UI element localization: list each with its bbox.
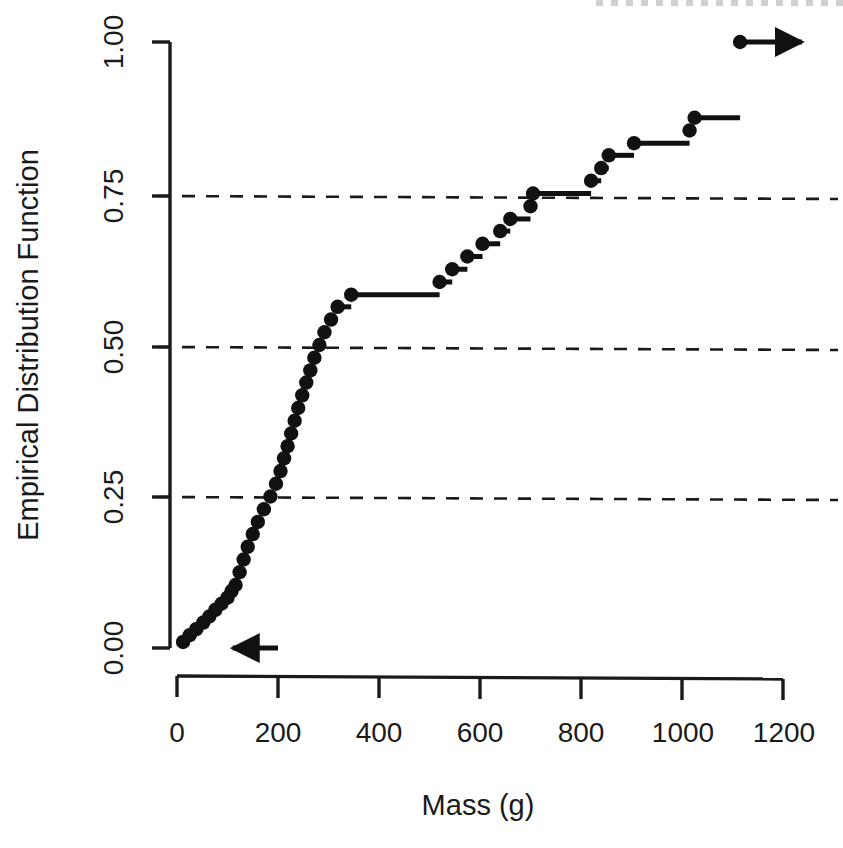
ecdf-data-point [594,161,608,175]
ecdf-data-point [317,325,331,339]
ecdf-data-point [236,552,250,566]
y-tick-label-025: 0.25 [98,470,129,525]
x-tick-label-200: 200 [255,717,302,748]
ecdf-data-point [330,300,344,314]
y-axis [152,42,170,648]
ecdf-data-point [241,540,255,554]
ecdf-data-point [251,515,265,529]
ecdf-data-point [277,451,291,465]
x-axis [177,676,783,700]
reference-line-075 [158,196,838,199]
ecdf-data-point [273,464,287,478]
y-tick-label-050: 0.50 [98,320,129,375]
ecdf-step-series [176,35,802,649]
x-axis-title: Mass (g) [422,789,535,821]
ecdf-data-point [257,502,271,516]
y-tick-label-000: 0.00 [98,621,129,676]
reference-line-025 [158,497,838,500]
reference-line-050 [158,347,838,350]
y-tick-labels: 1.00 0.75 0.50 0.25 0.00 [98,15,129,676]
ecdf-data-point [284,426,298,440]
ecdf-data-point [445,262,459,276]
ecdf-data-point [324,312,338,326]
ecdf-data-point [232,565,246,579]
x-tick-label-0: 0 [169,717,185,748]
ecdf-data-point [682,123,696,137]
ecdf-data-point [526,186,540,200]
x-tick-label-400: 400 [356,717,403,748]
ecdf-data-point [602,148,616,162]
ecdf-data-point [269,477,283,491]
y-axis-title: Empirical Distribution Function [12,149,44,541]
x-tick-label-1200: 1200 [753,717,815,748]
y-tick-label-100: 1.00 [98,15,129,70]
ecdf-data-point [493,224,507,238]
ecdf-data-point [295,388,309,402]
x-tick-labels: 0 200 400 600 800 1000 1200 [169,717,815,748]
ecdf-data-point [733,35,747,49]
ecdf-data-point [523,199,537,213]
y-tick-label-075: 0.75 [98,169,129,224]
ecdf-data-point [475,237,489,251]
ecdf-data-point [627,136,641,150]
ecdf-data-point [344,288,358,302]
ecdf-data-point [503,212,517,226]
x-tick-label-1000: 1000 [652,717,714,748]
x-tick-label-800: 800 [558,717,605,748]
x-tick-label-600: 600 [457,717,504,748]
ecdf-data-point [312,338,326,352]
ecdf-data-point [228,578,242,592]
ecdf-data-point [584,174,598,188]
ecdf-data-point [287,414,301,428]
ecdf-data-point [432,275,446,289]
ecdf-data-point [687,111,701,125]
ecdf-plot-svg: 1.00 0.75 0.50 0.25 0.00 0 200 400 600 8… [0,0,843,848]
ecdf-data-point [291,401,305,415]
ecdf-data-point [280,439,294,453]
ecdf-data-point [303,363,317,377]
ecdf-data-point [460,249,474,263]
ecdf-data-point [307,351,321,365]
ecdf-figure: 1.00 0.75 0.50 0.25 0.00 0 200 400 600 8… [0,0,843,848]
ecdf-data-point [263,489,277,503]
